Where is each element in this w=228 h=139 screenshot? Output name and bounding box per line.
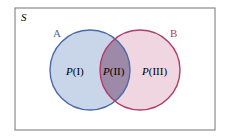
- set-a-label: A: [53, 27, 61, 39]
- region-ii-label: P(II): [102, 65, 125, 78]
- region-i-label: P(I): [65, 65, 84, 78]
- set-b-label: B: [170, 27, 177, 39]
- region-iii-label: P(III): [141, 65, 167, 78]
- venn-diagram: S A B P(I) P(II) P(III): [0, 0, 228, 139]
- region-ii-id: (II): [110, 65, 125, 78]
- region-iii-id: (III): [149, 65, 168, 78]
- region-i-id: (I): [73, 65, 84, 78]
- universe-label: S: [21, 11, 27, 23]
